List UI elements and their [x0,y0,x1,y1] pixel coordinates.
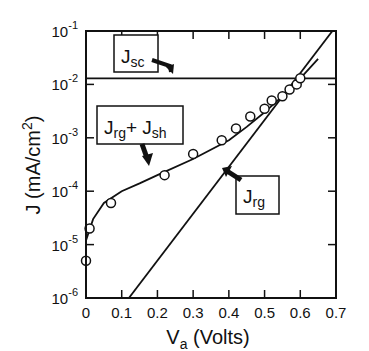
data-point [232,124,241,133]
annotation-jrg: Jrg [222,166,279,214]
data-point [189,149,198,158]
chart: 00.10.20.30.40.50.60.7 10-110-210-310-41… [0,0,369,351]
annotation-jrg-jsh: Jrg+ Jsh [97,106,183,166]
data-point [160,171,169,180]
x-tick-label: 0 [82,304,90,321]
data-point [260,104,269,113]
series-line-jrg-jsh [86,59,318,241]
data-points [82,74,305,265]
y-tick-label: 10-3 [52,126,78,147]
y-tick-label: 10-6 [52,286,78,307]
x-tick-label: 0.7 [326,304,347,321]
x-tick-label: 0.5 [254,304,275,321]
y-tick-labels: 10-110-210-310-410-510-6 [52,19,78,307]
x-tick-labels: 00.10.20.30.40.50.60.7 [82,304,347,321]
y-tick-label: 10-4 [52,179,78,200]
data-point [278,92,287,101]
x-tick-label: 0.4 [218,304,239,321]
data-point [217,136,226,145]
data-point [296,74,305,83]
series-line-jrg [129,31,333,298]
data-point [107,199,116,208]
data-point [246,112,255,121]
x-axis-title: Va (Volts) [166,326,249,351]
y-tick-label: 10-5 [52,233,78,254]
y-tick-label: 10-1 [52,19,78,40]
annotation-jsc: Jsc [114,35,174,74]
x-tick-label: 0.1 [111,304,132,321]
x-tick-label: 0.2 [147,304,168,321]
x-tick-label: 0.6 [290,304,311,321]
data-point [267,96,276,105]
y-tick-label: 10-2 [52,72,78,93]
x-tick-label: 0.3 [183,304,204,321]
y-axis-title: J (mA/cm2) [19,116,44,215]
